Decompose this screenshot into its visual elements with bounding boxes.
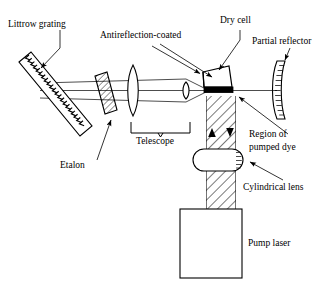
- dry-cell[interactable]: [203, 66, 233, 93]
- figure-canvas: Littrow grating Antireflection-coated Dr…: [0, 0, 330, 291]
- label-region-of-pumped-dye-line1: Region of: [249, 129, 287, 140]
- label-antireflection-coated: Antireflection-coated: [100, 30, 181, 41]
- telescope-small-lens[interactable]: [183, 82, 189, 99]
- label-dry-cell: Dry cell: [220, 15, 251, 26]
- label-littrow-grating: Littrow grating: [8, 19, 66, 30]
- littrow-grating[interactable]: [19, 52, 92, 136]
- telescope-large-lens[interactable]: [128, 65, 139, 116]
- label-telescope: Telescope: [136, 136, 174, 147]
- cylindrical-lens[interactable]: [193, 149, 243, 171]
- label-pump-laser: Pump laser: [248, 238, 290, 249]
- label-region-of-pumped-dye-line2: pumped dye: [249, 142, 296, 153]
- etalon[interactable]: [95, 72, 117, 114]
- partial-reflector[interactable]: [273, 61, 286, 119]
- label-cylindrical-lens: Cylindrical lens: [243, 182, 303, 193]
- label-etalon: Etalon: [60, 160, 85, 171]
- pump-laser[interactable]: [180, 209, 242, 278]
- leader-lines: [41, 30, 290, 180]
- telescope-span-bracket: [131, 122, 190, 137]
- label-partial-reflector: Partial reflector: [252, 36, 311, 47]
